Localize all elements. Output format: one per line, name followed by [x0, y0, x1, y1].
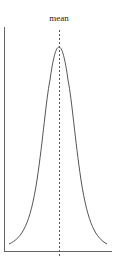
mean-label: mean — [49, 13, 69, 23]
bell-curve-diagram: mean — [0, 0, 113, 256]
distribution-curve — [9, 47, 107, 244]
